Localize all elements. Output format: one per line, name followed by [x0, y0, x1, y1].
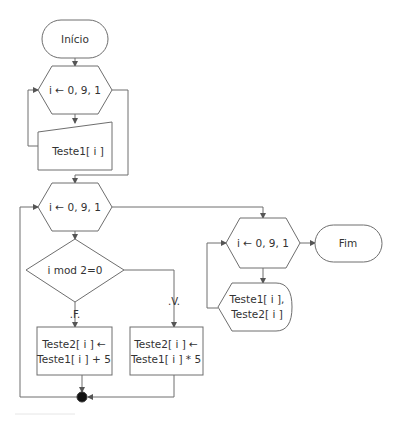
junction-dot [77, 392, 87, 402]
edge-true-connector [88, 375, 174, 397]
input1-label: Teste1[ i ] [51, 145, 104, 157]
edge-loop2-exit-loop3 [112, 207, 263, 218]
end-terminal: Fim [315, 225, 382, 262]
edge-decision-true [124, 270, 174, 327]
false-branch-label: .F. [70, 309, 81, 320]
process-false-line2: Teste1[ i ] + 5 [36, 353, 111, 365]
loop1-hexagon: i ← 0, 9, 1 [38, 66, 112, 114]
process-true-line2: Teste1[ i ] * 5 [130, 353, 201, 365]
display-line1: Teste1[ i ], [229, 293, 285, 305]
loop3-hexagon: i ← 0, 9, 1 [226, 218, 300, 268]
process-true-box: Teste2[ i ] ← Teste1[ i ] * 5 [130, 327, 203, 375]
decision-label: i mod 2=0 [47, 264, 102, 276]
loop2-hexagon: i ← 0, 9, 1 [38, 183, 112, 231]
process-false-box: Teste2[ i ] ← Teste1[ i ] + 5 [36, 327, 112, 375]
process-true-line1: Teste2[ i ] ← [133, 338, 198, 350]
true-branch-label: .V. [168, 296, 180, 307]
start-label: Início [61, 33, 89, 45]
start-terminal: Início [42, 20, 108, 58]
flowchart-canvas: Início i ← 0, 9, 1 Teste1[ i ] i ← 0, 9,… [0, 0, 403, 423]
process-false-line1: Teste2[ i ] ← [41, 338, 106, 350]
display-shape: Teste1[ i ], Teste2[ i ] [218, 283, 292, 331]
display-line2: Teste2[ i ] [230, 308, 283, 320]
input1-manual-input: Teste1[ i ] [38, 122, 112, 170]
end-label: Fim [339, 237, 357, 249]
edge-input1-back-loop1 [28, 90, 38, 146]
loop3-label: i ← 0, 9, 1 [237, 237, 289, 249]
loop1-label: i ← 0, 9, 1 [49, 84, 101, 96]
decision-diamond: i mod 2=0 [26, 239, 124, 302]
loop2-label: i ← 0, 9, 1 [49, 201, 101, 213]
